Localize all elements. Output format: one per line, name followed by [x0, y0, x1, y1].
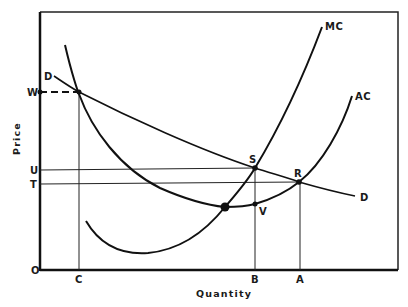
label-r: R: [294, 168, 302, 179]
point-r: [296, 179, 302, 185]
label-t: T: [30, 179, 37, 190]
label-u: U: [30, 165, 39, 176]
y-axis-title: Price: [11, 122, 22, 155]
diagram-canvas: MC AC D D W U T S R V O C B A Quantity P…: [0, 0, 408, 307]
point-ac-minimum: [221, 203, 230, 212]
label-origin: O: [31, 265, 40, 276]
label-v: V: [259, 206, 267, 217]
point-v: [253, 202, 258, 207]
label-s: S: [249, 154, 257, 165]
mc-curve: [86, 27, 322, 253]
label-ac: AC: [355, 91, 371, 102]
label-b: B: [251, 274, 259, 285]
label-d-lower: D: [360, 192, 369, 203]
label-mc: MC: [325, 21, 343, 32]
label-w: W: [27, 87, 39, 98]
point-s: [252, 165, 258, 171]
point-w-intersection: [77, 90, 82, 95]
economics-diagram: MC AC D D W U T S R V O C B A Quantity P…: [0, 0, 408, 307]
demand-curve: [54, 76, 355, 196]
label-c: C: [75, 274, 83, 285]
x-axis-title: Quantity: [196, 288, 252, 299]
label-d-upper: D: [44, 71, 53, 82]
u-price-line: [40, 168, 255, 170]
label-a: A: [296, 274, 304, 285]
